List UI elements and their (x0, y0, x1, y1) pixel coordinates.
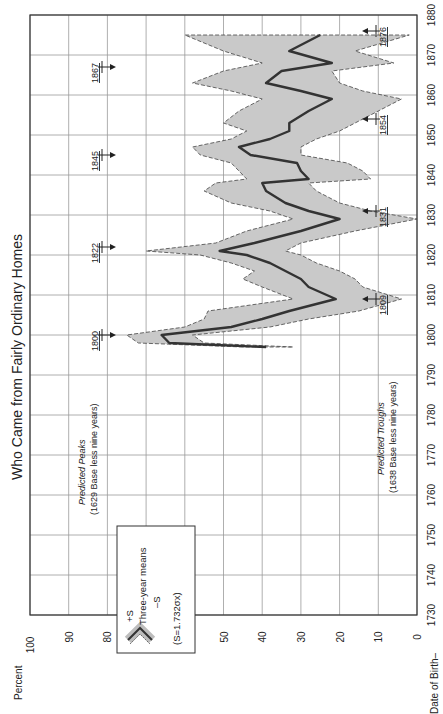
year-tick-label: 1790 (426, 363, 437, 386)
year-tick-label: 1870 (426, 43, 437, 66)
predicted-troughs-title: Predicted Troughs (376, 402, 386, 475)
year-tick-label: 1850 (426, 123, 437, 146)
predicted-trough-year: 1809 (378, 295, 388, 315)
year-tick-label: 1810 (426, 283, 437, 306)
percent-tick-label: 20 (335, 631, 346, 643)
y-axis-title: Percent (13, 665, 24, 700)
year-tick-label: 1780 (426, 403, 437, 426)
year-tick-label: 1820 (426, 243, 437, 266)
year-tick-label: 1770 (426, 443, 437, 466)
predicted-peak-year: 1822 (90, 243, 100, 263)
year-tick-label: 1840 (426, 163, 437, 186)
percent-tick-label: 50 (219, 631, 230, 643)
year-tick-label: 1730 (426, 603, 437, 626)
trough-arrowhead-icon (362, 28, 368, 34)
year-tick-label: 1830 (426, 203, 437, 226)
percent-tick-label: 100 (25, 636, 36, 653)
legend-note: (S=1.732σx) (171, 592, 182, 645)
year-tick-label: 1760 (426, 483, 437, 506)
x-axis-title: Date of Birth– (429, 652, 440, 714)
chart-container: 0102030405060708090100173017401750176017… (0, 0, 443, 714)
percent-tick-label: 40 (257, 631, 268, 643)
percent-tick-label: 80 (102, 631, 113, 643)
peak-arrowhead-icon (110, 244, 116, 250)
predicted-trough-year: 1876 (378, 27, 388, 47)
peak-arrowhead-icon (110, 152, 116, 158)
chart-svg: 0102030405060708090100173017401750176017… (0, 0, 443, 714)
year-tick-label: 1800 (426, 323, 437, 346)
year-tick-label: 1750 (426, 523, 437, 546)
year-tick-label: 1740 (426, 563, 437, 586)
predicted-peak-year: 1867 (90, 63, 100, 83)
percent-tick-label: 30 (296, 631, 307, 643)
peak-arrowhead-icon (110, 64, 116, 70)
percent-tick-label: 10 (373, 631, 384, 643)
predicted-peak-year: 1845 (90, 151, 100, 171)
predicted-trough-year: 1831 (378, 207, 388, 227)
legend-minus-s: –S (151, 596, 162, 608)
legend-three-year-means: Three-year means (137, 547, 148, 625)
percent-tick-label: 0 (412, 634, 423, 640)
predicted-troughs-subtitle: (1638 Base less nine years) (388, 381, 398, 493)
predicted-peaks-title: Predicted Peaks (77, 439, 87, 505)
predicted-peaks-subtitle: (1629 Base less nine years) (89, 403, 99, 515)
predicted-peak-year: 1800 (90, 331, 100, 351)
predicted-trough-year: 1854 (378, 115, 388, 135)
legend: +S Three-year means –S (S=1.732σx) (117, 526, 195, 653)
year-tick-label: 1860 (426, 83, 437, 106)
std-band (127, 35, 417, 347)
chart-title: Who Came from Fairly Ordinary Homes (9, 234, 25, 480)
legend-plus-s: +S (124, 610, 135, 622)
percent-tick-label: 90 (64, 631, 75, 643)
year-tick-label: 1880 (426, 3, 437, 26)
std-band-area (127, 35, 417, 347)
peak-arrowhead-icon (110, 332, 116, 338)
